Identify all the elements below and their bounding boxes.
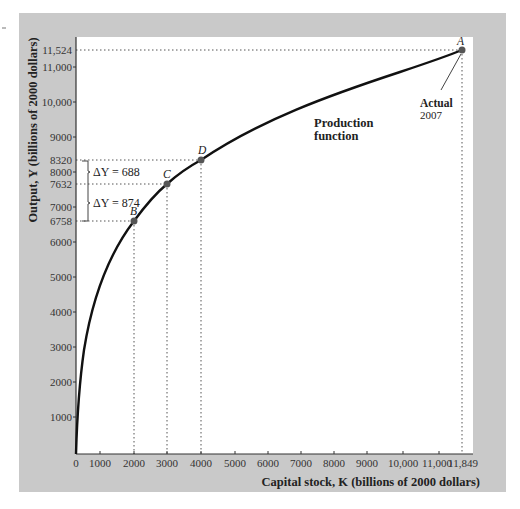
y-tick-label: 7632 (50, 178, 72, 190)
x-tick-label: 11,849 (448, 457, 478, 469)
y-tick-label: 6000 (50, 236, 73, 248)
x-tick-label: 7000 (290, 457, 313, 469)
actual-label-line1: Actual (420, 97, 453, 109)
y-tick-label: 3000 (50, 341, 73, 353)
data-points (131, 47, 466, 225)
point-b (131, 218, 138, 225)
point-c (164, 181, 171, 188)
x-tick-label: 1000 (89, 457, 112, 469)
point-d-label: D (197, 144, 207, 156)
y-tick-label: 11,000 (42, 61, 72, 73)
y-tick-label: 11,524 (42, 44, 72, 56)
x-tick-label: 3000 (156, 457, 179, 469)
y-tick-label: 8000 (50, 166, 73, 178)
curve-label-line2: function (314, 129, 359, 143)
production-function-chart: 1000 2000 3000 4000 5000 6000 6758 7000 … (0, 0, 520, 509)
y-axis-title: Output, Y (billions of 2000 dollars) (26, 37, 40, 222)
x-tick-label: 4000 (190, 457, 213, 469)
delta-braces (82, 161, 90, 221)
y-tick-label: 10,000 (42, 96, 73, 108)
actual-label-line2: 2007 (420, 109, 443, 121)
x-tick-label: 6000 (257, 457, 280, 469)
y-tick-label: 9000 (50, 131, 73, 143)
y-tick-label: 6758 (50, 215, 73, 227)
x-tick-labels: 0 1000 2000 3000 4000 5000 6000 7000 800… (73, 457, 478, 469)
y-tick-label: 7000 (50, 201, 73, 213)
point-a-label: A (456, 35, 465, 47)
curve-label-line1: Production (314, 116, 374, 130)
x-tick-label: 8000 (323, 457, 346, 469)
y-tick-label: 2000 (50, 376, 73, 388)
actual-pointer-line (441, 54, 461, 90)
y-tick-label: 8320 (50, 154, 73, 166)
guide-lines (76, 50, 462, 454)
x-axis-title: Capital stock, K (billions of 2000 dolla… (262, 475, 480, 489)
x-tick-label: 0 (73, 457, 79, 469)
x-tick-label: 2000 (123, 457, 146, 469)
x-tick-label: 10,000 (388, 457, 419, 469)
delta-y-874-label: ΔY = 874 (93, 196, 140, 210)
point-d (198, 157, 205, 164)
point-c-label: C (163, 168, 171, 180)
x-tick-label: 5000 (224, 457, 247, 469)
y-tick-labels: 1000 2000 3000 4000 5000 6000 6758 7000 … (42, 44, 73, 423)
x-tick-label: 9000 (356, 457, 379, 469)
delta-y-688-label: ΔY = 688 (93, 165, 140, 179)
y-tick-label: 5000 (50, 271, 73, 283)
y-tick-label: 1000 (50, 411, 73, 423)
y-tick-label: 4000 (50, 306, 73, 318)
point-a (459, 47, 466, 54)
